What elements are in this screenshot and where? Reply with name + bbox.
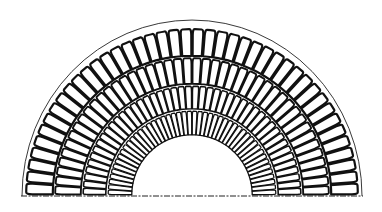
voussoir-brick: [185, 86, 191, 109]
voussoir-brick: [192, 58, 200, 84]
voussoir-brick: [330, 172, 357, 184]
voussoir-brick: [183, 58, 191, 84]
voussoir-rings: [26, 29, 358, 195]
arch-drawing: [0, 0, 382, 212]
voussoir-brick: [252, 190, 276, 195]
voussoir-brick: [278, 188, 301, 194]
voussoir-brick: [26, 184, 53, 195]
voussoir-brick: [181, 29, 192, 56]
voussoir-brick: [331, 184, 358, 195]
voussoir-brick: [187, 111, 192, 135]
arch-illustration: Semicircular arch with four concentric r…: [0, 0, 382, 212]
voussoir-brick: [193, 29, 204, 56]
voussoir-brick: [169, 30, 181, 57]
voussoir-brick: [55, 186, 81, 194]
voussoir-brick: [303, 186, 329, 194]
